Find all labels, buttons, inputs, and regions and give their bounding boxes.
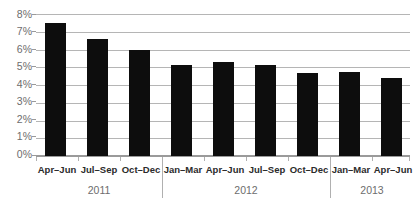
x-axis-line — [36, 156, 410, 157]
y-tick-label: 4% — [0, 79, 32, 90]
bar — [381, 78, 402, 156]
y-tick-label: 1% — [0, 131, 32, 142]
x-axis-label: Jul–Sep — [78, 164, 120, 176]
gridline — [36, 14, 410, 15]
x-tick-mark — [120, 157, 121, 161]
plot-area — [36, 14, 410, 156]
x-tick-mark — [204, 157, 205, 161]
y-tick-label: 5% — [0, 61, 32, 72]
bar — [87, 39, 108, 156]
bar — [45, 23, 66, 156]
x-axis-label: Apr–Jun — [36, 164, 78, 176]
bar-chart: 8% 7% 6% 5% 4% 3% 2% 1% 0% — [0, 0, 416, 207]
x-axis-label: Jan–Mar — [330, 164, 372, 176]
y-tick-label: 2% — [0, 114, 32, 125]
bar — [129, 50, 150, 157]
x-axis-label: Jan–Mar — [162, 164, 204, 176]
y-tick-label: 0% — [0, 149, 32, 160]
bar — [297, 73, 318, 156]
x-axis-label: Oct–Dec — [120, 164, 162, 176]
gridline — [36, 32, 410, 33]
x-group-label: 2013 — [330, 184, 414, 196]
x-axis-label: Apr–Jun — [372, 164, 414, 176]
x-tick-mark — [246, 157, 247, 161]
x-tick-mark — [372, 157, 373, 161]
y-tick-label: 7% — [0, 26, 32, 37]
x-tick-mark — [288, 157, 289, 161]
x-group-label: 2011 — [36, 184, 162, 196]
x-axis-label: Oct–Dec — [288, 164, 330, 176]
x-axis-label: Jul–Sep — [246, 164, 288, 176]
bar — [255, 65, 276, 156]
x-tick-mark — [36, 157, 37, 161]
x-tick-mark — [78, 157, 79, 161]
y-tick-label: 3% — [0, 96, 32, 107]
y-tick-label: 8% — [0, 9, 32, 20]
bar — [339, 72, 360, 156]
x-axis-label: Apr–Jun — [204, 164, 246, 176]
y-tick-label: 6% — [0, 44, 32, 55]
bar — [171, 65, 192, 156]
bar — [213, 62, 234, 156]
x-group-label: 2012 — [162, 184, 330, 196]
x-tick-mark — [409, 157, 410, 161]
